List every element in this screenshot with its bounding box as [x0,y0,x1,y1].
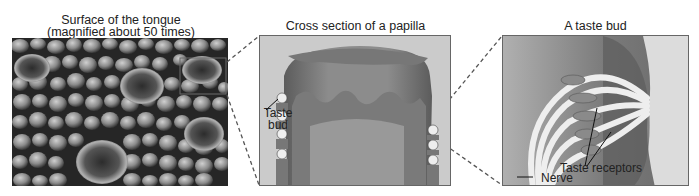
papillae-texture-image [12,38,228,186]
taste-bud-label: Taste bud [263,107,293,131]
papilla-cross-section: Taste bud [259,35,451,186]
surface-title: Surface of the tongue (magnified about 5… [12,14,230,38]
taste-bud-title: A taste bud [502,20,689,32]
taste-bud-label-line2: bud [263,119,293,131]
papilla-title: Cross section of a papilla [259,20,452,32]
surface-title-line2: (magnified about 50 times) [12,26,230,38]
tongue-surface-micrograph [12,38,228,186]
taste-bud-detail: Taste receptors Nerve [502,35,689,186]
nerve-label: Nerve [541,172,573,184]
